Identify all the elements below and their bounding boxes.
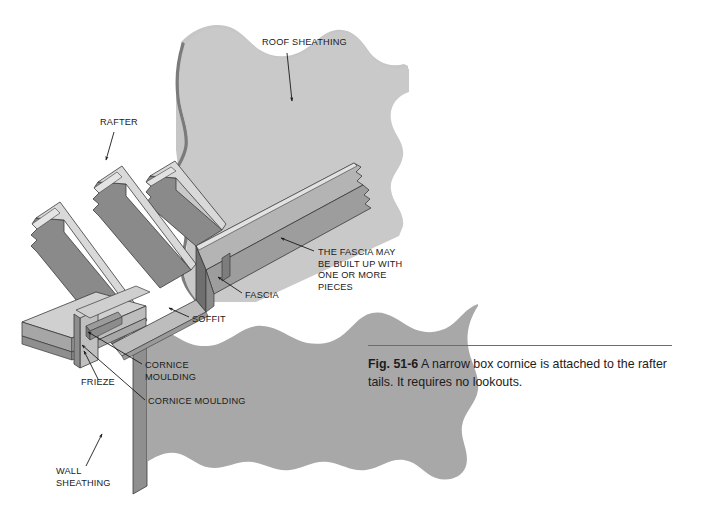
caption-divider [368,345,672,346]
figure-caption-block: Fig. 51-6 A narrow box cornice is attach… [368,345,674,391]
callout-line: ONE OR MORE [318,270,387,280]
callout-label-rafter: RAFTER [100,117,138,127]
callout-label-cornice-moulding-lower: CORNICE MOULDING [148,396,246,406]
callout-line: BE BUILT UP WITH [318,259,402,269]
callout-line: THE FASCIA MAY [318,247,396,257]
callout-label-fascia: FASCIA [245,290,280,300]
callout-line: ROOF SHEATHING [262,37,347,47]
callout-line: FASCIA [245,290,280,300]
callout-label-roof-sheathing: ROOF SHEATHING [262,37,347,47]
callout-label-frieze: FRIEZE [81,377,115,387]
callout-line: RAFTER [100,117,138,127]
cornice-illustration: ROOF SHEATHINGRAFTERTHE FASCIA MAYBE BUI… [0,0,706,511]
callout-label-fascia-built-up-note: THE FASCIA MAYBE BUILT UP WITHONE OR MOR… [318,247,402,292]
callout-line: PIECES [318,282,353,292]
frieze-board [74,310,98,368]
callout-line: CORNICE [145,360,189,370]
callout-line: WALL [56,466,81,476]
callout-label-cornice-moulding-upper: CORNICEMOULDING [145,360,196,382]
callout-line: MOULDING [145,372,196,382]
figure-caption: Fig. 51-6 A narrow box cornice is attach… [368,356,674,391]
callout-label-wall-sheathing: WALLSHEATHING [56,466,111,488]
leader-line-wall-sheathing [86,434,102,466]
callout-label-soffit: SOFFIT [192,314,226,324]
callout-line: SOFFIT [192,314,226,324]
callout-line: SHEATHING [56,478,111,488]
figure-number: Fig. 51-6 [368,357,418,371]
leader-line-rafter [106,132,114,160]
callout-line: FRIEZE [81,377,115,387]
figure-page: ROOF SHEATHINGRAFTERTHE FASCIA MAYBE BUI… [0,0,706,511]
callout-line: CORNICE MOULDING [148,396,246,406]
